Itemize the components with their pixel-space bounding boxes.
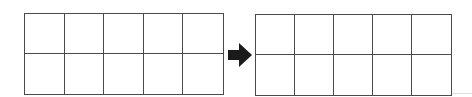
grid-cell bbox=[373, 15, 412, 55]
grid-cell bbox=[104, 14, 144, 54]
grid-cell bbox=[295, 55, 334, 95]
grid-cell bbox=[412, 15, 451, 55]
grid-cell bbox=[65, 54, 105, 94]
faint-line bbox=[452, 93, 472, 94]
grid-cell bbox=[373, 55, 412, 95]
grid-cell bbox=[104, 54, 144, 94]
grid-cell bbox=[25, 54, 65, 94]
grid-cell bbox=[334, 55, 373, 95]
grid-cell bbox=[295, 15, 334, 55]
grid-cell bbox=[144, 54, 184, 94]
grid-cell bbox=[65, 14, 105, 54]
right-grid bbox=[255, 14, 452, 96]
left-grid bbox=[24, 13, 224, 95]
grid-cell bbox=[144, 14, 184, 54]
grid-cell bbox=[183, 14, 223, 54]
grid-cell bbox=[334, 15, 373, 55]
grid-cell bbox=[256, 55, 295, 95]
grid-cell bbox=[256, 15, 295, 55]
right-arrow-icon bbox=[228, 43, 252, 67]
grid-cell bbox=[412, 55, 451, 95]
grid-cell bbox=[183, 54, 223, 94]
grid-cell bbox=[25, 14, 65, 54]
